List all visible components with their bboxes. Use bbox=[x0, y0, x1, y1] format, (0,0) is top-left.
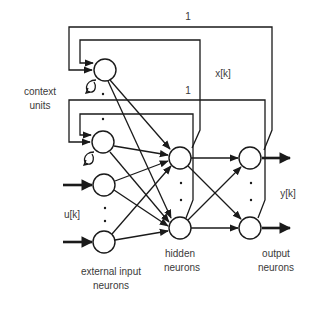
output-signal-label: y[k] bbox=[276, 188, 300, 200]
external-input-label-line1: external input bbox=[70, 266, 152, 278]
output-neuron-1 bbox=[239, 147, 261, 169]
input-neuron-1 bbox=[93, 174, 115, 196]
input-neuron-2 bbox=[93, 231, 115, 253]
output-neuron-2 bbox=[239, 217, 261, 239]
output-neurons-label-line1: output bbox=[254, 248, 298, 260]
connections-to-hidden bbox=[108, 80, 171, 240]
self-loop-icon bbox=[84, 152, 94, 164]
hidden-neuron-2 bbox=[169, 217, 191, 239]
external-input-label-line2: neurons bbox=[70, 280, 152, 292]
feedback-loop-output-to-context-2 bbox=[69, 100, 265, 218]
input-signal-label: u[k] bbox=[60, 209, 84, 221]
hidden-neurons-label-line1: hidden bbox=[160, 248, 200, 260]
feedback-weight-label-2: 1 bbox=[182, 85, 194, 97]
self-loop-icon bbox=[86, 80, 96, 92]
context-unit-2 bbox=[92, 131, 114, 153]
hidden-neuron-1 bbox=[169, 147, 191, 169]
hidden-neurons-label-line2: neurons bbox=[160, 262, 204, 274]
state-signal-label: x[k] bbox=[210, 68, 236, 80]
context-units-label-line2: units bbox=[18, 100, 62, 112]
connections-to-output bbox=[188, 158, 241, 228]
context-unit-1 bbox=[94, 59, 116, 81]
feedback-weight-label-1: 1 bbox=[182, 11, 194, 23]
output-neurons-label-line2: neurons bbox=[254, 262, 298, 274]
context-units-label-line1: context bbox=[18, 86, 62, 98]
